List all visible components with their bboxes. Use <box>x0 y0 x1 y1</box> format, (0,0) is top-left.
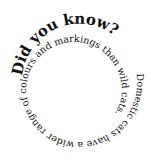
body-text: Domestic cats have a wider range of colo… <box>17 33 146 151</box>
spiral-svg: Did you know? Domestic cats have a wider… <box>0 0 151 166</box>
spiral-text-figure: Did you know? Domestic cats have a wider… <box>0 0 151 166</box>
body-path-text: Domestic cats have a wider range of colo… <box>17 33 146 151</box>
